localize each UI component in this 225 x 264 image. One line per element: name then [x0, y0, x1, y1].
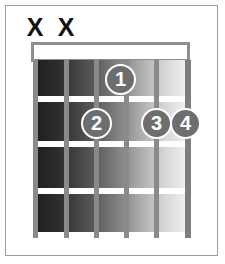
finger-dot-3: 3 — [141, 108, 172, 139]
chord-diagram: X X 1 2 3 4 — [0, 0, 225, 264]
string-6 — [185, 60, 191, 238]
finger-dot-4: 4 — [170, 108, 201, 139]
mute-marker-row: X X — [0, 14, 225, 40]
mute-marker-string-2: X — [54, 14, 78, 40]
string-3 — [94, 60, 99, 238]
finger-dot-1: 1 — [105, 64, 136, 95]
string-1 — [33, 60, 38, 238]
string-5 — [154, 60, 159, 238]
fret-cell-4 — [33, 194, 188, 232]
nut-bar — [31, 42, 190, 62]
fret-line-2 — [33, 141, 188, 147]
fret-line-4 — [33, 232, 188, 238]
finger-dot-2: 2 — [81, 108, 112, 139]
mute-marker-string-1: X — [23, 14, 47, 40]
fret-line-1 — [33, 96, 188, 102]
string-2 — [64, 60, 69, 238]
fret-line-3 — [33, 188, 188, 194]
fret-cell-3 — [33, 147, 188, 188]
